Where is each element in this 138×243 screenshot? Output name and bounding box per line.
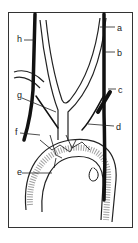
left-branch-vessel bbox=[14, 71, 44, 88]
label-a: a bbox=[117, 24, 122, 33]
label-f: f bbox=[15, 128, 18, 137]
label-b: b bbox=[117, 49, 122, 58]
label-e: e bbox=[17, 168, 22, 177]
aortic-arch bbox=[25, 139, 116, 222]
vessel-trunk bbox=[40, 18, 106, 140]
label-d: d bbox=[116, 123, 121, 132]
label-c: c bbox=[118, 86, 123, 95]
nerves bbox=[24, 14, 110, 200]
label-h: h bbox=[17, 35, 22, 44]
label-g: g bbox=[17, 91, 22, 100]
figure-frame bbox=[9, 13, 133, 228]
